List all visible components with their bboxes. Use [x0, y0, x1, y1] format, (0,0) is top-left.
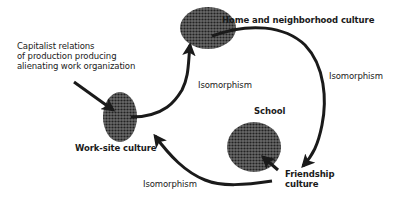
friendship-line-1: Friendship: [285, 169, 334, 179]
worksite-culture-label: Work-site culture: [75, 143, 156, 153]
arrow-worksite-to-home: [131, 45, 190, 117]
arrow-capitalist-to-worksite: [74, 82, 113, 110]
friendship-culture-label: Friendship culture: [285, 169, 334, 189]
capitalist-line-3: alienating work organization: [17, 61, 135, 71]
diagram-canvas: [0, 0, 400, 198]
home-culture-label: Home and neighborhood culture: [222, 15, 374, 25]
isomorphism-label-worksite-home: Isomorphism: [198, 80, 252, 90]
school-label: School: [254, 106, 285, 116]
friendship-line-2: culture: [285, 179, 334, 189]
home-culture-node: [180, 7, 236, 49]
isomorphism-label-home-friendship: Isomorphism: [329, 71, 383, 81]
capitalist-line-1: Capitalist relations: [17, 41, 135, 51]
isomorphism-label-friendship-worksite: Isomorphism: [143, 179, 197, 189]
capitalist-line-2: of production producing: [17, 51, 135, 61]
capitalist-relations-label: Capitalist relations of production produ…: [17, 41, 135, 71]
